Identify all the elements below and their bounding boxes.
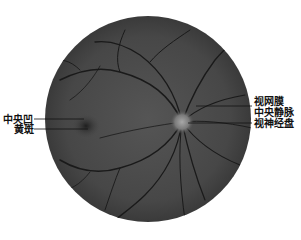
macula bbox=[72, 114, 100, 138]
label-macula: 黄斑 bbox=[14, 124, 34, 135]
label-optic-disc: 视神经盘 bbox=[254, 118, 294, 129]
label-central-retinal-vein-2: 中央静脉 bbox=[254, 107, 294, 118]
label-central-retinal-vein-1: 视网膜 bbox=[254, 96, 284, 107]
optic-disc bbox=[170, 110, 194, 134]
